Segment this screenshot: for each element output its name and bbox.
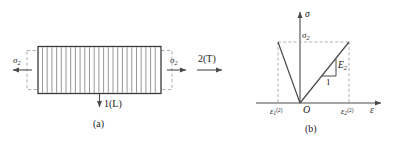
compression-branch-curve (278, 42, 300, 103)
sigma-axis-label: σ (305, 10, 310, 20)
modulus-label: E2 (338, 61, 347, 71)
direction-label-longitudinal: 1(L) (104, 99, 122, 109)
tensile-failure-strain-label: ε2(2) (341, 107, 353, 117)
panel-b-graphics (256, 12, 381, 103)
tension-branch-curve (300, 42, 349, 103)
composite-lamina-figure: σ2 σ2 2(T) 1(L) (a) σ ε σ2 E2 1 O ε1(2) … (0, 0, 393, 141)
stress-label-right: σ2 (170, 56, 178, 66)
slope-run-label: 1 (326, 78, 331, 87)
stress-label-left: σ2 (13, 56, 21, 66)
direction-label-transverse: 2(T) (198, 54, 216, 64)
origin-label: O (303, 105, 310, 115)
epsilon-axis-label: ε (370, 106, 374, 116)
compressive-failure-strain-label: ε1(2) (270, 107, 282, 117)
caption-panel-b: (b) (305, 124, 317, 134)
caption-panel-a: (a) (93, 119, 104, 129)
figure-vector-graphics (0, 0, 393, 141)
stress-level-label: σ2 (302, 31, 310, 41)
